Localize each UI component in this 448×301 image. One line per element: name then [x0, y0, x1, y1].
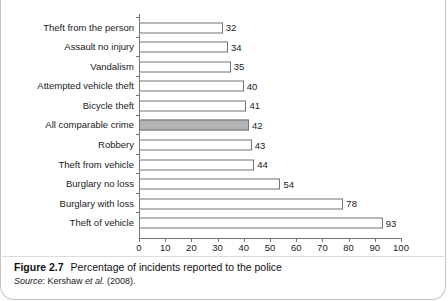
bar-row: Bicycle theft41	[139, 96, 401, 116]
figure-number: Figure 2.7	[14, 261, 64, 273]
source-year: (2008).	[105, 276, 136, 286]
value-tick-label: 70	[317, 243, 328, 253]
bar: 32	[139, 22, 223, 33]
category-tick	[136, 17, 139, 18]
bar-row: Attempted vehicle theft40	[139, 77, 401, 97]
bar-chart: Theft from the person32Assault no injury…	[1, 0, 447, 242]
category-label: Theft from the person	[43, 23, 134, 33]
bar-row: Burglary with loss78	[139, 194, 401, 214]
category-label: Assault no injury	[64, 43, 134, 53]
category-tick	[136, 212, 139, 213]
source-etal: et al.	[85, 276, 105, 286]
bar-row: Theft of vehicle93	[139, 213, 401, 233]
bar-value-label: 35	[234, 62, 245, 72]
bar: 54	[139, 179, 280, 190]
caption-title: Figure 2.7Percentage of incidents report…	[14, 261, 434, 274]
category-label: Burglary with loss	[60, 199, 134, 209]
category-label: Burglary no loss	[66, 179, 134, 189]
bar: 78	[139, 198, 343, 209]
bar: 41	[139, 100, 246, 111]
bar: 35	[139, 61, 231, 72]
bar-value-label: 32	[226, 23, 237, 33]
bar-row: Robbery43	[139, 135, 401, 155]
category-label: Theft of vehicle	[70, 218, 134, 228]
value-tick-label: 90	[370, 243, 381, 253]
bar-value-label: 54	[283, 179, 294, 189]
value-tick-label: 60	[291, 243, 302, 253]
category-label: Robbery	[98, 140, 134, 150]
bar-value-label: 42	[252, 121, 263, 131]
category-tick	[136, 134, 139, 135]
bar-value-label: 43	[255, 140, 266, 150]
category-tick	[136, 95, 139, 96]
category-label: Theft from vehicle	[59, 160, 135, 170]
bar-value-label: 78	[346, 199, 357, 209]
bar-value-label: 93	[386, 218, 397, 228]
category-tick	[136, 173, 139, 174]
bar: 34	[139, 42, 228, 53]
value-tick-label: 100	[393, 243, 409, 253]
category-tick	[136, 154, 139, 155]
value-tick-label: 0	[136, 243, 141, 253]
category-label: Bicycle theft	[83, 101, 134, 111]
bar: 40	[139, 81, 244, 92]
value-tick-label: 30	[212, 243, 223, 253]
category-tick	[136, 193, 139, 194]
category-label: Vandalism	[90, 62, 134, 72]
bar-value-label: 41	[249, 101, 260, 111]
bar-row: Burglary no loss54	[139, 174, 401, 194]
bar-value-label: 40	[247, 82, 258, 92]
bar: 42	[139, 120, 249, 131]
source-label: Source	[14, 276, 43, 286]
bar-value-label: 34	[231, 43, 242, 53]
bar-row: Assault no injury34	[139, 38, 401, 58]
figure-card: Theft from the person32Assault no injury…	[0, 0, 446, 300]
value-tick-label: 40	[239, 243, 250, 253]
bar: 44	[139, 159, 254, 170]
bar-value-label: 44	[257, 160, 268, 170]
caption-source: Source: Kershaw et al. (2008).	[14, 276, 434, 287]
value-tick-label: 80	[343, 243, 354, 253]
caption-divider	[2, 256, 446, 257]
figure-caption: Figure 2.7Percentage of incidents report…	[14, 261, 434, 287]
bar-row: Theft from vehicle44	[139, 155, 401, 175]
value-tick-label: 10	[160, 243, 171, 253]
bar: 43	[139, 140, 252, 151]
category-label: All comparable crime	[45, 121, 134, 131]
figure-title-text: Percentage of incidents reported to the …	[71, 261, 282, 273]
category-tick	[136, 115, 139, 116]
value-tick-label: 20	[186, 243, 197, 253]
value-tick-label: 50	[265, 243, 276, 253]
category-tick	[136, 37, 139, 38]
plot-area: Theft from the person32Assault no injury…	[139, 18, 401, 233]
category-label: Attempted vehicle theft	[37, 82, 134, 92]
bar-row: All comparable crime42	[139, 116, 401, 136]
source-author: Kershaw	[48, 276, 86, 286]
bar: 93	[139, 218, 383, 229]
category-tick	[136, 56, 139, 57]
bar-row: Vandalism35	[139, 57, 401, 77]
category-tick	[136, 76, 139, 77]
bar-row: Theft from the person32	[139, 18, 401, 38]
